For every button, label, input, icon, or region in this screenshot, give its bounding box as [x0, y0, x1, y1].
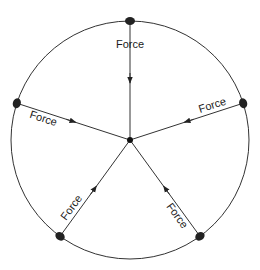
force-arrow-icon: [91, 186, 97, 194]
mass-icon: [54, 230, 67, 242]
force-arrow-icon: [184, 119, 194, 122]
force-label: Force: [116, 38, 144, 50]
force-arrow-icon: [164, 186, 170, 194]
mass-icon: [125, 17, 135, 25]
center-point: [127, 137, 133, 143]
force-label: Force: [28, 108, 58, 128]
mass-icon: [11, 97, 22, 109]
force-label: Force: [197, 95, 227, 115]
force-diagram: ForceForceForceForceForce: [0, 0, 260, 270]
mass-icon: [238, 97, 249, 109]
force-label: Force: [58, 192, 84, 222]
mass-icon: [194, 230, 207, 242]
force-label: Force: [164, 201, 190, 231]
force-arrow-icon: [66, 119, 76, 122]
